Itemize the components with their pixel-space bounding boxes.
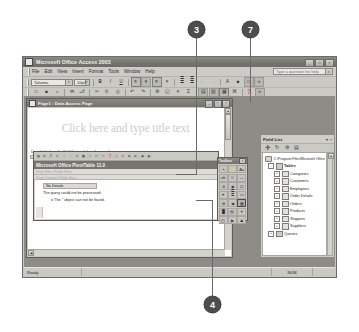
office-spreadsheet-tool[interactable]: ▤	[228, 208, 237, 216]
border-button[interactable]: □	[244, 77, 254, 87]
tree-node-table-order-details[interactable]: + Order Details	[263, 193, 326, 201]
expand-icon[interactable]: +	[274, 216, 280, 222]
expand-icon[interactable]: +	[274, 193, 280, 199]
close-button[interactable]: ×	[325, 59, 334, 68]
document-minimize-button[interactable]: _	[205, 100, 213, 108]
menu-help[interactable]: Help	[145, 69, 154, 74]
pivot-tool-5[interactable]: ↓	[68, 153, 74, 159]
help-question-box[interactable]: Type a question for help ▾	[273, 68, 333, 75]
pivot-tool-17[interactable]: ▶	[146, 153, 152, 159]
tree-node-table-orders[interactable]: + Orders	[263, 200, 326, 208]
select-objects-tool[interactable]: ↖	[219, 165, 228, 173]
pivot-tool-11[interactable]: ❓	[107, 153, 113, 159]
indent-button[interactable]: →	[208, 77, 218, 87]
chevron-down-icon[interactable]: ▾	[85, 80, 89, 85]
field-list-vertical-scrollbar[interactable]: ▲	[327, 152, 333, 256]
tree-node-tables-group[interactable]: - Tables	[263, 163, 326, 171]
expand-icon[interactable]: +	[274, 186, 280, 192]
pivot-tool-7[interactable]: ▦	[81, 153, 87, 159]
expand-icon[interactable]: +	[274, 223, 280, 229]
collapse-icon[interactable]: -	[268, 163, 274, 169]
tree-node-table-products[interactable]: + Products	[263, 208, 326, 216]
control-wizards-tool[interactable]: ✨	[228, 165, 237, 173]
text-box-tool[interactable]: □	[228, 174, 237, 182]
vertical-scroll-thumb[interactable]	[225, 114, 231, 140]
pivot-tool-2[interactable]: Σ	[48, 153, 54, 159]
pivot-tool-15[interactable]: ⊟	[133, 153, 139, 159]
numbered-list-button[interactable]: ≣	[177, 77, 187, 87]
align-left-button[interactable]: ≡	[131, 77, 141, 87]
record-navigation-tool[interactable]: ◀	[228, 199, 237, 207]
list-box-tool[interactable]: ≣	[228, 191, 237, 199]
pivot-tool-0[interactable]: ▤	[35, 153, 41, 159]
minimize-button[interactable]: _	[305, 59, 314, 68]
office-pivottable-tool[interactable]: ▦	[237, 199, 246, 207]
document-horizontal-scrollbar[interactable]: ◀	[28, 249, 225, 256]
label-tool[interactable]: Aa	[237, 165, 246, 173]
restore-button[interactable]: □	[315, 59, 324, 68]
dropdown-list-tool[interactable]: ▾	[219, 191, 228, 199]
justify-button[interactable]: ≡	[162, 77, 172, 87]
menu-format[interactable]: Format	[89, 69, 104, 74]
command-button-tool[interactable]: ▭	[237, 191, 246, 199]
pivot-tool-13[interactable]: ▾	[120, 153, 126, 159]
underline-button[interactable]: U	[116, 77, 126, 87]
menu-insert[interactable]: Insert	[72, 69, 84, 74]
tree-node-table-employees[interactable]: + Employees	[263, 185, 326, 193]
pivot-tool-10[interactable]: □	[100, 153, 106, 159]
toolbar-overflow-button[interactable]: »	[254, 77, 264, 87]
document-restore-button[interactable]: □	[214, 100, 222, 108]
document-close-button[interactable]: ×	[222, 100, 230, 108]
check-box-tool[interactable]: ☑	[237, 182, 246, 190]
fill-color-button[interactable]: ■	[233, 77, 243, 87]
drop-row-fields-zone[interactable]	[36, 207, 43, 218]
tree-node-table-customers[interactable]: + Customers	[263, 178, 326, 186]
toolbox-close-icon[interactable]: ×	[239, 158, 246, 164]
pivot-tool-9[interactable]: ⎘	[94, 153, 100, 159]
pivot-tool-4[interactable]: ↑	[61, 153, 67, 159]
menu-tools[interactable]: Tools	[108, 69, 119, 74]
expand-icon[interactable]: +	[274, 201, 280, 207]
tree-node-table-categories[interactable]: + Categories	[263, 170, 326, 178]
align-center-button[interactable]: ≡	[141, 77, 151, 87]
pivot-tool-14[interactable]: ⊞	[126, 153, 132, 159]
expand-icon[interactable]: +	[274, 171, 280, 177]
chevron-down-icon[interactable]: ▾	[326, 137, 328, 142]
option-group-tool[interactable]: ⊚	[219, 182, 228, 190]
menu-file[interactable]: File	[32, 69, 39, 74]
expand-icon[interactable]: +	[268, 231, 274, 237]
bound-span-tool[interactable]: ab	[219, 174, 228, 182]
scrolling-text-tool[interactable]: ↔	[237, 174, 246, 182]
tree-node-database[interactable]: C:\Program Files\Microsoft Office	[263, 155, 326, 163]
office-chart-tool[interactable]: █	[219, 208, 228, 216]
pivot-tool-3[interactable]: ↻	[55, 153, 61, 159]
scroll-left-icon[interactable]: ◀	[28, 250, 34, 256]
chevron-down-icon[interactable]: ▾	[325, 69, 332, 74]
standard-toolbar-grip[interactable]	[27, 89, 29, 96]
italic-button[interactable]: I	[106, 77, 116, 87]
font-color-button[interactable]: A	[223, 77, 233, 87]
close-icon[interactable]: ×	[330, 137, 332, 142]
image-hyperlink-tool[interactable]: ◰	[219, 216, 228, 224]
pivot-tool-12[interactable]: ⋮	[113, 153, 119, 159]
tree-node-queries-group[interactable]: + Queries	[263, 230, 326, 238]
menu-view[interactable]: View	[57, 69, 67, 74]
expand-icon[interactable]: +	[274, 208, 280, 214]
bold-button[interactable]: B	[95, 77, 105, 87]
hyperlink-tool[interactable]: ⚭	[237, 208, 246, 216]
font-name-combo[interactable]: Tahoma ▾	[31, 79, 73, 86]
page-title-placeholder[interactable]: Click here and type title text	[38, 122, 213, 134]
field-list-tree[interactable]: C:\Program Files\Microsoft Office - Tabl…	[262, 152, 327, 256]
image-tool[interactable]: ⛰	[237, 216, 246, 224]
pivot-tool-16[interactable]: ◀	[139, 153, 145, 159]
tree-node-table-suppliers[interactable]: + Suppliers	[263, 223, 326, 231]
outdent-button[interactable]: ←	[198, 77, 208, 87]
font-size-combo[interactable]: 10pt ▾	[74, 79, 90, 86]
option-button-tool[interactable]: ◉	[228, 182, 237, 190]
menu-bar-grip[interactable]	[28, 68, 30, 75]
formatting-toolbar-grip[interactable]	[27, 79, 29, 86]
expand-icon[interactable]: +	[274, 178, 280, 184]
pivot-tool-8[interactable]: ✂	[87, 153, 93, 159]
pivot-tool-6[interactable]: ≡	[74, 153, 80, 159]
menu-edit[interactable]: Edit	[44, 69, 52, 74]
